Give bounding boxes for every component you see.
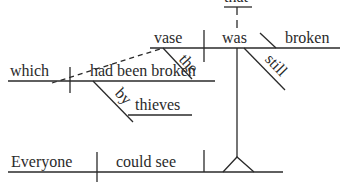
word-had-been-broken: had been broken: [90, 63, 196, 79]
word-that: that: [224, 0, 248, 5]
word-was: was: [222, 30, 247, 46]
word-broken: broken: [285, 30, 329, 46]
word-everyone: Everyone: [11, 154, 72, 170]
word-could-see: could see: [116, 154, 176, 170]
word-vase: vase: [154, 30, 182, 46]
word-thieves: thieves: [135, 97, 180, 113]
word-which: which: [10, 63, 49, 79]
sentence-diagram: that vase was broken the still which had…: [0, 0, 343, 184]
